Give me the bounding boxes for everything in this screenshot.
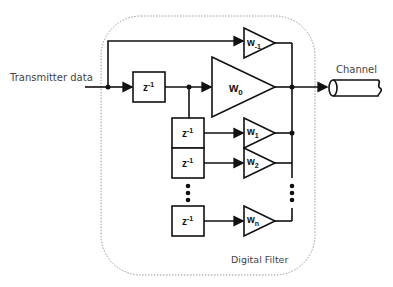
tap-w0 [212, 57, 275, 117]
output-label: Channel [336, 64, 377, 75]
digital-filter-diagram: Transmitter data [0, 0, 393, 287]
digital-filter-container [101, 16, 315, 275]
channel-icon [329, 80, 381, 96]
container-label: Digital Filter [231, 254, 288, 265]
input-label: Transmitter data [9, 72, 93, 83]
